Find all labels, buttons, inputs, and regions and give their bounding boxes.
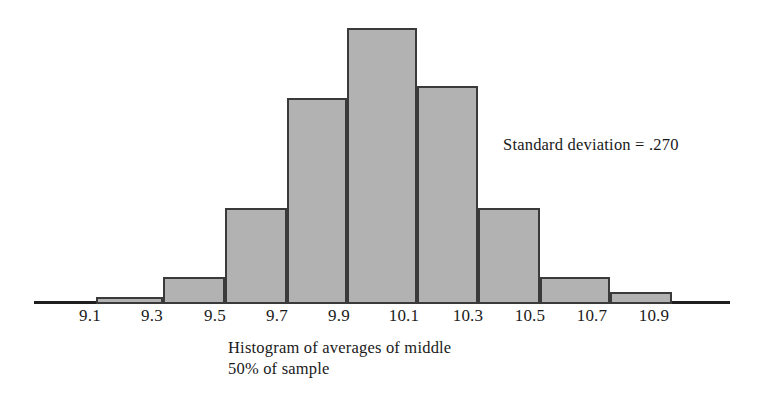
- histogram-bar: [96, 297, 163, 304]
- standard-deviation-annotation: Standard deviation = .270: [503, 134, 679, 156]
- x-tick-label: 10.7: [577, 305, 608, 327]
- x-tick-label: 10.9: [639, 305, 670, 327]
- histogram-bar: [540, 277, 610, 304]
- x-tick-label: 9.7: [266, 305, 288, 327]
- x-tick-label: 10.3: [453, 305, 484, 327]
- figure-caption: Histogram of averages of middle 50% of s…: [228, 337, 451, 379]
- x-tick-label: 10.5: [515, 305, 546, 327]
- x-axis-tick-labels: 9.19.39.59.79.910.110.310.510.710.9: [0, 305, 759, 331]
- histogram-bar: [347, 28, 417, 304]
- histogram-figure: 9.19.39.59.79.910.110.310.510.710.9 Stan…: [0, 0, 759, 397]
- x-tick-label: 9.5: [204, 305, 226, 327]
- histogram-bar: [610, 292, 672, 304]
- histogram-bar: [287, 98, 347, 304]
- histogram-bar: [417, 86, 478, 304]
- histogram-bar: [163, 277, 225, 304]
- histogram-bar: [225, 208, 287, 304]
- x-tick-label: 9.3: [141, 305, 163, 327]
- caption-line-2: 50% of sample: [228, 358, 451, 379]
- x-tick-label: 9.9: [328, 305, 350, 327]
- caption-line-1: Histogram of averages of middle: [228, 337, 451, 358]
- x-tick-label: 9.1: [79, 305, 101, 327]
- histogram-bar: [478, 208, 540, 304]
- x-tick-label: 10.1: [389, 305, 420, 327]
